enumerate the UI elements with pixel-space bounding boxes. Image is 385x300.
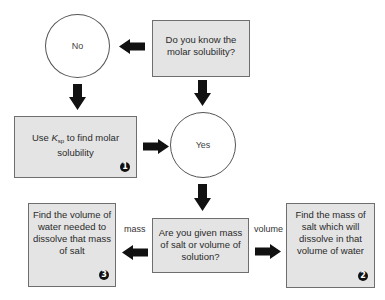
question-known-box: Do you know the molar solubility? <box>152 20 250 77</box>
arrow-left-to-find-volume <box>122 245 148 260</box>
question-given-box: Are you given mass of salt or volume of … <box>152 218 249 273</box>
use-ksp-box: Use Ksp to find molar solubility 1 <box>14 116 137 178</box>
find-mass-box: Find the mass of salt which will dissolv… <box>286 203 375 288</box>
find-volume-text: Find the volume of water needed to disso… <box>32 209 112 257</box>
arrow-right-to-find-mass <box>255 244 281 259</box>
find-volume-box: Find the volume of water needed to disso… <box>28 203 116 287</box>
question-given-text: Are you given mass of salt or volume of … <box>156 227 246 263</box>
question-known-text: Do you know the molar solubility? <box>161 34 241 58</box>
arrow-down-from-no <box>69 84 86 110</box>
edge-label-mass: mass <box>124 224 146 234</box>
arrow-down-to-question-given <box>194 184 211 211</box>
no-label: No <box>72 41 84 51</box>
step-badge-1: 1 <box>120 162 130 172</box>
arrow-left-to-no <box>119 39 145 54</box>
step-badge-2: 2 <box>358 271 368 281</box>
yes-circle: Yes <box>170 112 236 178</box>
step-badge-3: 3 <box>99 270 109 280</box>
use-ksp-text: Use Ksp to find molar solubility <box>26 132 126 159</box>
edge-label-volume: volume <box>254 224 283 234</box>
arrow-right-to-yes <box>143 139 169 154</box>
find-mass-text: Find the mass of salt which will dissolv… <box>290 209 372 257</box>
no-circle: No <box>45 14 110 78</box>
arrow-down-to-yes <box>194 80 211 106</box>
yes-label: Yes <box>196 140 211 150</box>
